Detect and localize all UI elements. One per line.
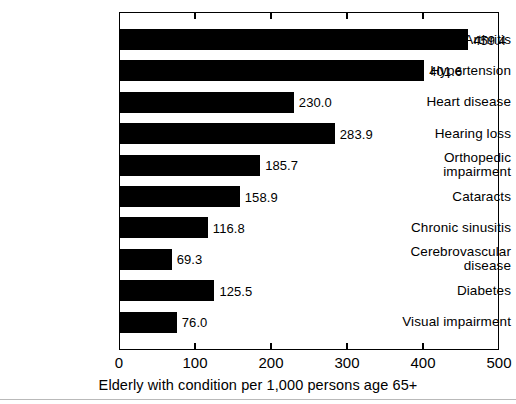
x-tick-top-300 [346,12,348,19]
category-label: Visual impairment [392,315,511,329]
category-label: Hypertension [392,64,511,78]
bottom-divider [0,399,516,400]
category-label: Chronic sinusitis [392,221,511,235]
bar [119,123,335,144]
bar [119,186,240,207]
bar [119,155,260,176]
bar-value-label: 158.9 [245,190,278,203]
bar-value-label: 185.7 [265,159,298,172]
bar [119,280,214,301]
bar [119,312,177,333]
bar-value-label: 125.5 [219,284,252,297]
category-label: Cerebrovascular disease [392,245,511,273]
category-label: Cataracts [392,190,511,204]
x-tick-label-0: 0 [115,354,123,372]
category-label: Diabetes [392,284,511,298]
bar-value-label: 69.3 [177,253,203,266]
x-tick-label-100: 100 [182,354,207,372]
bar-value-label: 283.9 [340,127,373,140]
x-tick-bottom-100 [194,343,196,350]
bar-value-label: 116.8 [213,221,245,234]
bar [119,92,294,113]
x-tick-top-100 [194,12,196,19]
x-tick-label-300: 300 [334,354,359,372]
x-tick-bottom-300 [346,343,348,350]
bar-value-label: 230.0 [299,96,332,109]
category-label: Heart disease [392,95,511,109]
bar-chart-figure: 459.4401.6230.0283.9185.7158.9116.869.31… [0,0,516,404]
category-label: Hearing loss [392,127,511,141]
category-label: Orthopedic impairment [392,151,511,179]
x-tick-top-200 [270,12,272,19]
x-tick-label-500: 500 [486,354,511,372]
x-tick-label-400: 400 [410,354,435,372]
bar [119,217,208,238]
x-axis-title: Elderly with condition per 1,000 persons… [0,376,516,394]
x-tick-top-400 [422,12,424,19]
x-tick-bottom-400 [422,343,424,350]
category-label: Arthritis [392,33,511,47]
bar [119,249,172,270]
x-tick-bottom-200 [270,343,272,350]
bar [119,60,424,81]
x-tick-label-200: 200 [258,354,283,372]
bar-value-label: 76.0 [182,316,208,329]
